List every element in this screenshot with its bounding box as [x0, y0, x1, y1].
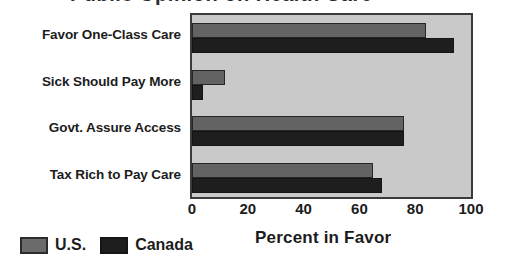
legend-swatch-canada-icon	[100, 237, 128, 254]
x-tick-100: 100	[458, 200, 483, 217]
legend-label-canada: Canada	[135, 236, 193, 254]
category-label-1: Sick Should Pay More	[1, 74, 181, 89]
bar-us-1	[192, 70, 225, 85]
legend-label-us: U.S.	[55, 236, 86, 254]
x-tick-40: 40	[295, 200, 312, 217]
bar-us-3	[192, 163, 373, 178]
chart-title-fragment: Public Opinion on Health Care	[0, 0, 512, 6]
bar-canada-2	[192, 131, 404, 146]
legend-entry-us: U.S.	[20, 236, 86, 254]
category-label-0: Favor One-Class Care	[1, 27, 181, 42]
x-tick-20: 20	[239, 200, 256, 217]
bar-canada-1	[192, 85, 203, 100]
chart-title-text: Public Opinion on Health Care	[70, 0, 372, 6]
x-axis-tick-labels: 020406080100	[190, 200, 473, 220]
category-label-3: Tax Rich to Pay Care	[1, 167, 181, 182]
bar-canada-3	[192, 178, 382, 193]
category-axis-labels: Favor One-Class CareSick Should Pay More…	[0, 13, 186, 199]
x-tick-60: 60	[351, 200, 368, 217]
bars-container	[192, 15, 471, 197]
x-tick-0: 0	[188, 200, 196, 217]
legend-swatch-us-icon	[20, 237, 48, 254]
bar-us-2	[192, 116, 404, 131]
chart-legend: U.S. Canada	[20, 233, 207, 257]
category-label-2: Govt. Assure Access	[1, 120, 181, 135]
x-axis-title: Percent in Favor	[255, 228, 391, 248]
plot-area	[190, 13, 473, 199]
bar-canada-0	[192, 38, 454, 53]
x-tick-80: 80	[407, 200, 424, 217]
bar-us-0	[192, 23, 426, 38]
legend-entry-canada: Canada	[100, 236, 193, 254]
